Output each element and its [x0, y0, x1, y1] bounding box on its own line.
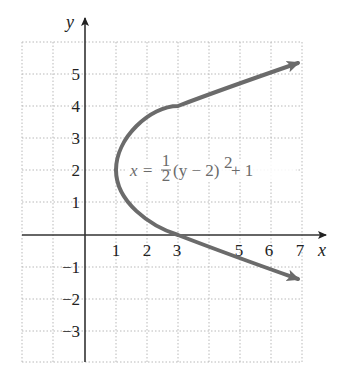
y-axis-label: y	[64, 12, 74, 32]
svg-text:3: 3	[72, 129, 81, 148]
svg-text:6: 6	[265, 241, 274, 260]
grid	[22, 42, 302, 362]
svg-text:2: 2	[72, 161, 81, 180]
svg-text:4: 4	[72, 97, 81, 116]
parabola-chart: y x 1 2 3 5 6 7 5 4 3 2 1 −1 −2 −3 x = 1…	[0, 0, 345, 378]
svg-text:x =: x =	[129, 161, 153, 180]
svg-text:−3: −3	[62, 322, 80, 341]
svg-text:+ 1: + 1	[231, 161, 253, 180]
svg-text:−2: −2	[62, 290, 80, 309]
equation-label: x = 1 2 (y − 2) 2 + 1	[126, 151, 296, 185]
svg-text:7: 7	[296, 241, 305, 260]
svg-text:5: 5	[72, 65, 81, 84]
x-tick-labels: 1 2 3 5 6 7	[112, 241, 305, 260]
x-axis-label: x	[317, 240, 326, 260]
svg-text:2: 2	[162, 166, 171, 185]
svg-text:2: 2	[143, 241, 152, 260]
svg-text:3: 3	[173, 241, 182, 260]
svg-text:1: 1	[72, 193, 81, 212]
svg-text:−1: −1	[62, 258, 80, 277]
svg-text:(y − 2): (y − 2)	[173, 161, 219, 180]
svg-text:1: 1	[112, 241, 121, 260]
